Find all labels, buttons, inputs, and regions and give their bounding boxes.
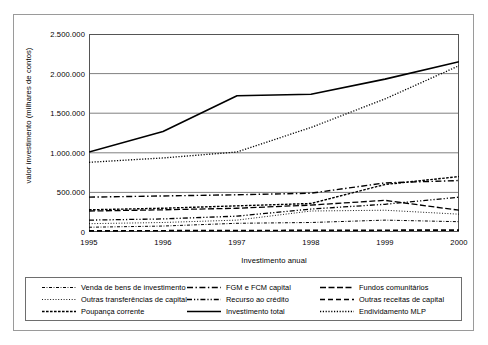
- legend-item[interactable]: Endividamento MLP: [320, 307, 453, 316]
- legend-line-swatch-icon: [42, 283, 76, 292]
- chart-figure: valor investimento (milhares de contos) …: [13, 14, 474, 331]
- legend-item-label: FGM e FCM capital: [226, 283, 291, 292]
- plot-frame: [90, 35, 459, 232]
- chart-legend: Venda de bens de investimentoOutras tran…: [25, 277, 462, 321]
- series-line-0: [89, 220, 459, 227]
- series-line-4: [89, 197, 459, 220]
- legend-item-label: Endividamento MLP: [359, 307, 426, 316]
- y-axis-tick-label: 1.500.000: [50, 109, 85, 118]
- legend-line-swatch-icon: [42, 307, 76, 316]
- legend-item[interactable]: FGM e FCM capital: [187, 283, 320, 292]
- y-axis-tick-label: 2.000.000: [50, 69, 85, 78]
- y-axis-tick-label: 1.000.000: [50, 148, 85, 157]
- legend-item[interactable]: Fundos comunitários: [320, 283, 453, 292]
- legend-line-swatch-icon: [320, 307, 354, 316]
- legend-item[interactable]: Poupança corrente: [42, 307, 187, 316]
- legend-item-label: Outras transferências de capital: [81, 295, 187, 304]
- series-line-6: [89, 177, 459, 210]
- y-axis-title: valor investimento (milhares de contos): [24, 16, 33, 216]
- legend-line-swatch-icon: [187, 307, 221, 316]
- plot-area: 0500.0001.000.0001.500.0002.000.0002.500…: [89, 34, 459, 232]
- legend-item[interactable]: Outras receitas de capital: [320, 295, 453, 304]
- legend-item-label: Recurso ao crédito: [226, 295, 289, 304]
- legend-line-swatch-icon: [187, 283, 221, 292]
- y-axis-tick-label: 0: [81, 228, 85, 237]
- x-axis-tick-label: 1997: [228, 238, 245, 247]
- plot-svg: [89, 34, 459, 232]
- legend-line-swatch-icon: [320, 295, 354, 304]
- x-axis-tick-label: 1995: [80, 238, 97, 247]
- x-axis-tick-label: 1998: [302, 238, 319, 247]
- y-axis-tick-label: 500.000: [57, 188, 85, 197]
- x-axis-tick-label: 2000: [450, 238, 467, 247]
- series-line-7: [89, 62, 459, 152]
- legend-item-label: Investimento total: [226, 307, 285, 316]
- y-axis-tick-label: 2.500.000: [50, 30, 85, 39]
- legend-line-swatch-icon: [42, 295, 76, 304]
- legend-grid: Venda de bens de investimentoOutras tran…: [26, 278, 461, 320]
- legend-item-label: Venda de bens de investimento: [81, 283, 186, 292]
- series-line-5: [89, 230, 459, 231]
- x-axis-tick-label: 1996: [154, 238, 171, 247]
- legend-item[interactable]: Recurso ao crédito: [187, 295, 320, 304]
- series-line-8: [89, 66, 459, 163]
- chart-plot-region: valor investimento (milhares de contos) …: [14, 15, 473, 271]
- legend-item-label: Poupança corrente: [81, 307, 144, 316]
- series-line-2: [89, 200, 459, 211]
- legend-item[interactable]: Outras transferências de capital: [42, 295, 187, 304]
- x-axis-title: Investimento anual: [89, 256, 459, 265]
- legend-item[interactable]: Venda de bens de investimento: [42, 283, 187, 292]
- legend-item[interactable]: Investimento total: [187, 307, 320, 316]
- x-axis-tick-label: 1999: [376, 238, 393, 247]
- legend-line-swatch-icon: [187, 295, 221, 304]
- legend-line-swatch-icon: [320, 283, 354, 292]
- legend-item-label: Outras receitas de capital: [359, 295, 444, 304]
- legend-item-label: Fundos comunitários: [359, 283, 429, 292]
